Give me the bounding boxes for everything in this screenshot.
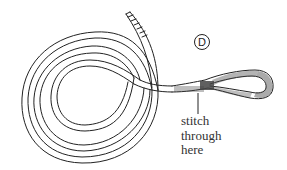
caption-line: through — [181, 129, 221, 144]
rope-drawing — [0, 0, 287, 170]
caption-line: here — [181, 143, 221, 158]
braid-texture — [174, 71, 272, 98]
caption-line: stitch — [181, 114, 221, 129]
figure-label: D — [194, 34, 210, 50]
rope-splice-illustration: D stitch through here — [0, 0, 287, 170]
stitch-caption: stitch through here — [181, 114, 221, 158]
